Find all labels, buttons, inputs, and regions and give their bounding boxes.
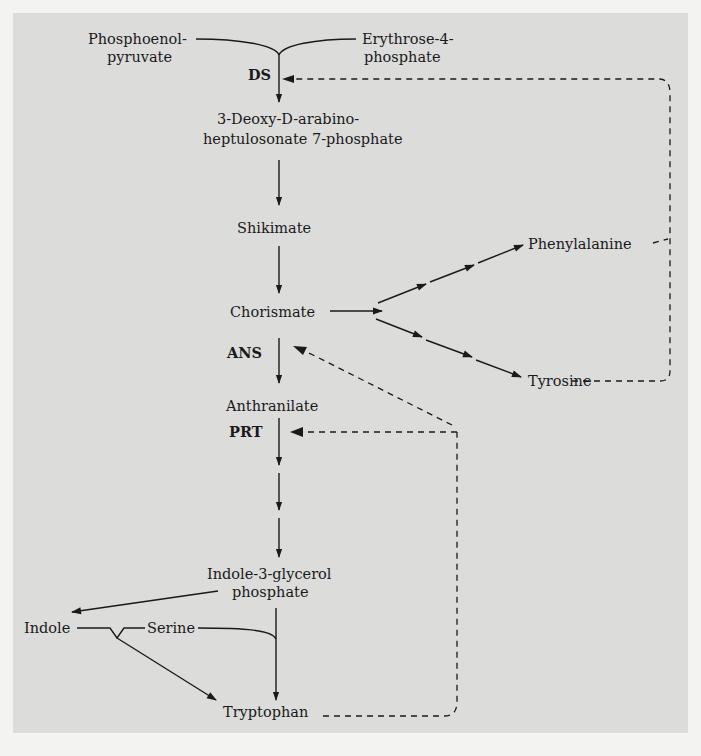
label-chorismate: Chorismate (230, 304, 315, 320)
e4p-branch-line (279, 39, 356, 55)
indole-serine-join (77, 628, 145, 638)
arrow-phe-step-2 (430, 265, 474, 282)
label-erythrose-4-phosphate: Erythrose-4- (362, 31, 454, 47)
arrow-phe-step-1 (378, 284, 426, 303)
label-tryptophan: Tryptophan (223, 704, 308, 720)
label-phenylalanine: Phenylalanine (528, 236, 632, 252)
arrow-tyr-step-3 (476, 360, 521, 377)
label-tyrosine: Tyrosine (528, 373, 592, 389)
feedback-prt-arrowhead (290, 427, 303, 437)
label-indole-3-glycerol-phosphate: Indole-3-glycerol (207, 566, 332, 582)
arrow-igp-to-indole (72, 591, 218, 612)
label-indole: Indole (24, 620, 70, 636)
label-shikimate: Shikimate (237, 220, 311, 236)
pathway-diagram: Phosphoenol- pyruvate Erythrose-4- phosp… (0, 0, 701, 756)
label-phosphoenolpyruvate-2: pyruvate (107, 49, 172, 65)
feedback-trp-to-ans (305, 351, 452, 425)
label-anthranilate: Anthranilate (225, 398, 318, 414)
feedback-trp-vertical (323, 432, 457, 716)
feedback-ds-arrowhead (282, 75, 294, 83)
feedback-phe-stub (653, 239, 668, 243)
enzyme-ds: DS (248, 66, 271, 83)
enzyme-ans: ANS (226, 344, 262, 361)
enzyme-prt: PRT (229, 423, 263, 440)
feedback-ans-arrowhead (293, 346, 307, 355)
label-dahp-2: heptulosonate 7-phosphate (203, 131, 403, 147)
label-dahp: 3-Deoxy-D-arabino- (217, 111, 359, 127)
label-phosphoenolpyruvate: Phosphoenol- (88, 31, 187, 47)
serine-curve (198, 628, 276, 639)
label-indole-3-glycerol-phosphate-2: phosphate (232, 584, 308, 600)
label-erythrose-4-phosphate-2: phosphate (364, 49, 440, 65)
arrow-tyr-step-2 (426, 340, 472, 357)
pep-branch-line (196, 39, 279, 55)
label-serine: Serine (147, 620, 195, 636)
arrow-indole-to-tryptophan (117, 638, 216, 700)
arrow-phe-step-3 (478, 245, 523, 263)
arrow-tyr-step-1 (376, 319, 422, 337)
